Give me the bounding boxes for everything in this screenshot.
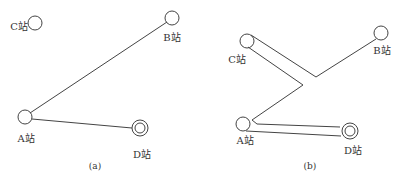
station-c-label: C站	[10, 18, 28, 33]
route-c-a	[248, 47, 303, 120]
edge-a-d	[32, 119, 132, 128]
station-d-label: D站	[344, 142, 362, 157]
route-c-b	[251, 35, 376, 77]
caption-b: (b)	[304, 161, 317, 171]
caption-a: (a)	[89, 161, 101, 171]
route-a-d-lower	[246, 131, 341, 136]
station-d-inner-icon	[345, 126, 355, 136]
station-d-outer-icon	[342, 123, 358, 139]
station-a-icon	[18, 110, 32, 124]
station-c-label: C站	[228, 51, 246, 66]
station-d-label: D站	[133, 146, 151, 161]
network-diagram	[0, 0, 399, 188]
edge-a-b	[30, 22, 167, 113]
route-a-d-upper	[252, 120, 340, 127]
station-b-icon	[374, 26, 388, 40]
station-a-icon	[236, 117, 250, 131]
station-b-icon	[165, 11, 179, 25]
station-c-icon	[240, 34, 254, 48]
station-c-icon	[28, 16, 42, 30]
station-b-label: B站	[373, 42, 390, 57]
station-a-label: A站	[17, 130, 34, 145]
station-d-inner-icon	[135, 123, 145, 133]
station-d-outer-icon	[132, 120, 148, 136]
station-b-label: B站	[163, 29, 180, 44]
station-a-label: A站	[236, 132, 253, 147]
